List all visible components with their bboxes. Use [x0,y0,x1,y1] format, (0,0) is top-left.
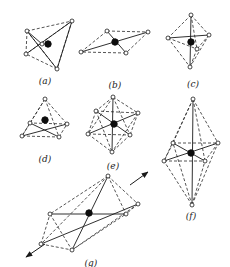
ligand-atom [166,36,170,40]
central-atom [111,121,117,127]
ligand-atom [86,132,90,136]
panel-label: (c) [187,79,200,89]
central-atom [188,150,194,156]
polyhedron-edge [26,31,27,54]
polyhedron-edge [50,214,72,250]
polyhedron-edge [96,97,113,111]
ligand-atom [190,203,194,207]
central-atom [112,39,118,45]
ligand-atom [94,109,98,113]
polyhedron-edge [41,176,108,244]
ligand-atom [195,47,199,51]
polyhedron-edge [192,161,205,205]
panel-label: (a) [39,76,52,86]
polyhedron-edge [22,136,59,137]
polyhedron-edge [193,99,218,143]
polyhedron-edge [30,123,67,124]
panel-g: (g) [26,172,148,267]
ligand-atom [146,30,150,34]
bond-line [57,21,72,69]
ligand-atom [106,174,110,178]
polyhedron-edge [108,176,126,214]
ligand-atom [110,150,114,154]
ligand-atom [124,51,128,55]
polyhedron-edge [88,111,96,134]
ligand-atom [39,242,43,246]
ligand-atom [40,42,44,46]
central-atom [45,41,51,47]
polyhedron-edge [108,176,138,204]
ligand-atom [191,97,195,101]
polyhedron-edge [88,134,112,152]
coordination-polyhedra-diagram: (a)(b)(c)(d)(e)(f)(g) [0,0,230,267]
ligand-atom [124,212,128,216]
polyhedron-edge [26,54,57,69]
panel-d: (d) [20,97,69,164]
polyhedron-edge [192,143,218,205]
ligand-atom [57,135,61,139]
ligand-atom [65,122,69,126]
polyhedron-edge [164,161,192,205]
panel-c: (c) [166,13,211,89]
ligand-atom [105,29,109,33]
ligand-atom [203,159,207,163]
central-atom [86,210,92,216]
polyhedron-edge [113,97,138,113]
ligand-atom [24,52,28,56]
polyhedron-edge [96,111,138,113]
ligand-atom [207,33,211,37]
central-atom [188,39,194,45]
bond-line [168,35,209,38]
ligand-atom [43,97,47,101]
central-atom [42,117,48,123]
polyhedron-edge [173,99,193,143]
ligand-atom [136,202,140,206]
panel-label: (e) [107,161,120,171]
polyhedron-edge [50,176,108,214]
ligand-atom [188,65,192,69]
polyhedron-edge [197,35,209,49]
ligand-atom [136,111,140,115]
ligand-atom [55,67,59,71]
ligand-atom [20,134,24,138]
ligand-atom [70,248,74,252]
polyhedron-edge [112,135,130,152]
panel-a: (a) [24,19,74,86]
polyhedron-edge [107,31,148,32]
panel-label: (f) [186,211,197,221]
panel-label: (g) [85,258,98,267]
polyhedron-edge [193,99,205,161]
polyhedron-edge [41,244,72,250]
ligand-atom [171,141,175,145]
polyhedron-edge [190,49,197,67]
panel-label: (b) [109,80,122,90]
panel-f: (f) [162,97,220,221]
ligand-atom [128,133,132,137]
bond-line [27,31,42,44]
ligand-atom [25,29,29,33]
panel-e: (e) [86,95,140,171]
ligand-atom [189,13,193,17]
polyhedron-edge [81,31,107,52]
ligand-atom [162,159,166,163]
ligand-atom [28,121,32,125]
polyhedron-edge [168,15,191,38]
panel-label: (d) [39,154,52,164]
polyhedron-edge [41,214,50,244]
ligand-atom [111,95,115,99]
ligand-atom [48,212,52,216]
panel-b: (b) [79,29,150,90]
ligand-atom [70,19,74,23]
direction-arrow [130,172,148,185]
ligand-atom [79,50,83,54]
polyhedron-edge [81,52,126,53]
ligand-atom [216,141,220,145]
